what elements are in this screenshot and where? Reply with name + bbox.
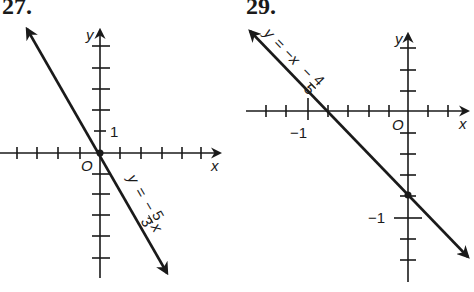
equation-label: y = − 5 3 x xyxy=(115,169,172,239)
tick-label-1: 1 xyxy=(110,123,118,140)
plot-line xyxy=(250,31,468,257)
x-ticks xyxy=(266,98,448,120)
graphs: y x O 1 y = − 5 3 x xyxy=(0,0,474,292)
origin-point xyxy=(97,150,104,157)
y-axis-label: y xyxy=(394,30,404,47)
graph-27: y x O 1 y = − 5 3 x xyxy=(0,26,220,278)
y-axis-label: y xyxy=(85,26,95,43)
svg-text:=: = xyxy=(132,184,151,200)
x-tick-label: −1 xyxy=(290,124,307,141)
y-tick-label: −1 xyxy=(368,209,385,226)
graph-29: y x O −1 −1 y = −x − 4 5 xyxy=(246,21,468,282)
origin-label: O xyxy=(392,116,404,133)
x-axis-label: x xyxy=(210,157,219,174)
x-axis-label: x xyxy=(458,115,467,132)
y-intercept-point xyxy=(405,192,412,199)
svg-text:y: y xyxy=(124,170,144,187)
origin-label: O xyxy=(81,157,93,174)
svg-text:5: 5 xyxy=(301,80,319,98)
equation-label: y = −x − 4 5 xyxy=(253,21,328,97)
